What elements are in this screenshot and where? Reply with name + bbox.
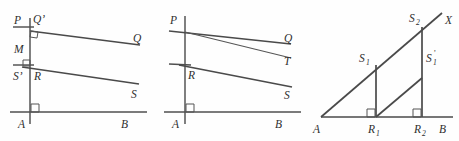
label-X: X <box>444 14 453 26</box>
label-R2: R 2 <box>413 123 426 138</box>
label-B: B <box>275 118 282 130</box>
label-P: P <box>13 14 21 26</box>
label-Q-prime: Q’ <box>33 13 45 25</box>
panel-middle: P Q T R S A B <box>155 0 305 141</box>
label-M: M <box>13 43 25 55</box>
panel-right: X S 2 S 1 S 1 ’ A R 1 R 2 B <box>305 0 459 141</box>
right-angle-mark-A <box>31 104 39 112</box>
ray-PT <box>185 32 291 58</box>
label-S1prime-subscript: 1 <box>433 58 437 67</box>
right-angle-mark-A <box>186 104 194 112</box>
label-S1prime-base: S <box>426 52 432 64</box>
label-R1-base: R <box>367 123 375 135</box>
right-angle-mark-R2 <box>413 109 421 117</box>
label-R1-subscript: 1 <box>376 129 380 138</box>
label-B: B <box>121 118 128 130</box>
label-S: S <box>131 88 137 100</box>
label-Q: Q <box>284 32 293 44</box>
label-S2: S 2 <box>409 12 420 27</box>
ray-R1S1prime <box>376 78 422 117</box>
label-A: A <box>171 118 180 130</box>
right-angle-mark-R1 <box>367 109 375 117</box>
label-S1-subscript: 1 <box>366 58 370 67</box>
label-S2-base: S <box>409 12 415 24</box>
ray-QprimeQ <box>30 31 140 45</box>
label-R2-base: R <box>413 123 421 135</box>
ray-AX <box>321 13 442 117</box>
geometry-figure: P Q’ Q M S’ R S A B P Q T R S A B <box>0 0 459 141</box>
label-T: T <box>284 55 292 67</box>
ray-RS <box>179 65 292 87</box>
label-Q: Q <box>133 32 142 44</box>
label-S2-subscript: 2 <box>416 18 420 27</box>
label-R: R <box>33 70 41 82</box>
label-S1: S 1 <box>359 52 370 67</box>
label-R2-subscript: 2 <box>422 129 426 138</box>
label-A: A <box>17 118 26 130</box>
label-R1: R 1 <box>367 123 380 138</box>
label-S1-prime: S 1 ’ <box>426 49 437 67</box>
label-B: B <box>439 123 446 135</box>
label-S-prime: S’ <box>13 70 23 82</box>
panel-left: P Q’ Q M S’ R S A B <box>0 0 155 141</box>
label-P: P <box>169 14 177 26</box>
label-S1-base: S <box>359 52 365 64</box>
label-A: A <box>312 123 321 135</box>
label-S: S <box>284 89 290 101</box>
label-R: R <box>187 69 195 81</box>
label-S1prime-mark: ’ <box>433 49 436 58</box>
